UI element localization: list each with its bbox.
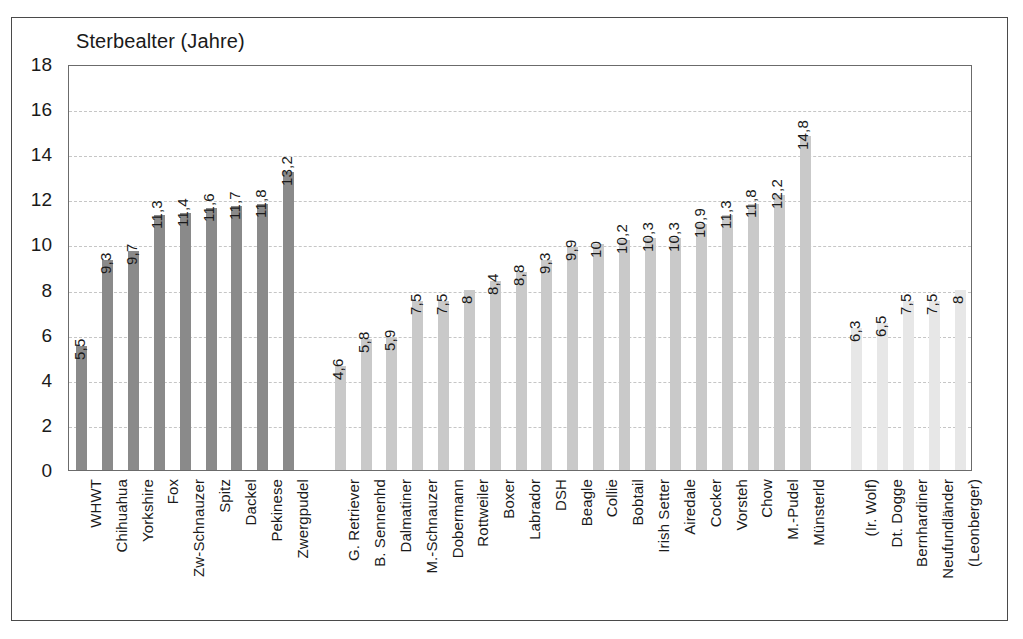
x-tick-label: Bernhardiner [913,479,930,567]
y-tick-label: 12 [31,189,52,211]
bar-value-label: 8,8 [510,264,527,285]
bar-value-label: 10,3 [665,222,682,252]
bar[interactable] [748,204,759,470]
bar[interactable] [800,136,811,470]
x-tick-label: Airedale [681,479,698,535]
x-tick-label: Zw-Schnauzer [190,479,207,577]
bar[interactable] [283,172,294,470]
bar[interactable] [412,301,423,470]
x-tick-label: Dobermann [449,479,466,558]
bar[interactable] [102,260,113,470]
x-tick-label: Beagle [578,479,595,526]
y-tick-label: 10 [31,234,52,256]
bar[interactable] [696,224,707,470]
bar[interactable] [670,238,681,470]
bar-value-label: 11,3 [148,200,165,229]
bar[interactable] [567,247,578,470]
bar[interactable] [206,208,217,470]
x-tick-label: Dalmatiner [397,479,414,553]
bar[interactable] [929,301,940,470]
bar[interactable] [154,215,165,470]
x-tick-label: Yorkshire [139,479,156,542]
bar[interactable] [516,272,527,470]
x-tick-label: Boxer [500,479,517,519]
plot-area: 5,59,39,711,311,411,611,711,813,24,65,85… [68,65,972,471]
bar[interactable] [490,281,501,470]
bar[interactable] [722,215,733,470]
y-axis: 024681012141618 [0,65,62,471]
x-tick-label: Irish Setter [655,479,672,553]
bar-value-label: 6,3 [846,320,863,341]
bar[interactable] [257,204,268,470]
bars-layer: 5,59,39,711,311,411,611,711,813,24,65,85… [69,66,971,470]
x-tick-label: G. Retriever [345,479,362,561]
x-axis: WHWTChihuahuaYorkshireFoxZw-SchnauzerSpi… [68,471,972,621]
bar[interactable] [851,328,862,470]
x-tick-label: M.-Schnauzer [423,479,440,574]
figure-container: Sterbealter (Jahre) 024681012141618 5,59… [0,0,1023,639]
bar[interactable] [335,366,346,470]
x-tick-label: (Leonberger) [965,479,982,567]
bar[interactable] [955,290,966,470]
bar-value-label: 7,5 [923,293,940,314]
bar[interactable] [541,260,552,470]
bar[interactable] [774,195,785,470]
bar-value-label: 11,4 [174,198,191,227]
bar-value-label: 9,3 [536,253,553,274]
bar[interactable] [438,301,449,470]
bar[interactable] [180,213,191,470]
bar-value-label: 10,2 [613,224,630,254]
bar-value-label: 14,8 [794,120,811,150]
y-tick-label: 4 [41,370,52,392]
x-tick-label: B. Sennenhd [371,479,388,567]
x-tick-label: Chihuahua [113,479,130,552]
bar-value-label: 11,8 [742,189,759,218]
bar[interactable] [903,301,914,470]
bar-value-label: 11,3 [717,200,734,229]
x-tick-label: Dackel [242,479,259,525]
bar[interactable] [386,337,397,470]
bar-value-label: 5,5 [71,338,88,359]
x-tick-label: Collie [603,479,620,517]
x-tick-label: Labrador [526,479,543,540]
bar-value-label: 11,7 [226,191,243,220]
y-tick-label: 8 [41,280,52,302]
bar[interactable] [76,346,87,470]
x-tick-label: Zwergpudel [294,479,311,558]
bar-value-label: 7,5 [897,293,914,314]
bar-value-label: 4,6 [329,359,346,380]
chart-title: Sterbealter (Jahre) [76,30,245,53]
bar-value-label: 8,4 [484,273,501,294]
x-tick-label: DSH [552,479,569,511]
x-tick-label: Neufundländer [939,479,956,579]
x-tick-label: Cocker [707,479,724,527]
bar[interactable] [464,290,475,470]
y-tick-label: 6 [41,325,52,347]
bar-value-label: 5,9 [381,329,398,350]
bar-value-label: 12,2 [768,179,785,209]
y-tick-label: 14 [31,144,52,166]
bar[interactable] [877,323,888,470]
bar-value-label: 13,2 [278,156,295,186]
bar-value-label: 5,8 [355,332,372,353]
y-tick-label: 16 [31,99,52,121]
x-tick-label: Rottweiler [474,479,491,547]
bar[interactable] [645,238,656,470]
bar[interactable] [128,251,139,470]
bar-value-label: 10,3 [639,222,656,252]
bar-value-label: 9,3 [97,253,114,274]
x-tick-label: (Ir. Wolf) [862,479,879,536]
bar[interactable] [231,206,242,470]
bar-value-label: 11,8 [252,189,269,218]
bar[interactable] [361,339,372,470]
x-tick-label: Vorsteh [733,479,750,531]
bar-value-label: 9,9 [562,239,579,260]
bar-value-label: 7,5 [433,293,450,314]
bar[interactable] [593,244,604,470]
bar-value-label: 10,9 [691,208,708,238]
bar[interactable] [619,240,630,470]
x-tick-label: Chow [758,479,775,518]
bar-value-label: 11,6 [200,193,217,222]
bar-value-label: 6,5 [872,316,889,337]
x-tick-label: Dt. Dogge [888,479,905,547]
